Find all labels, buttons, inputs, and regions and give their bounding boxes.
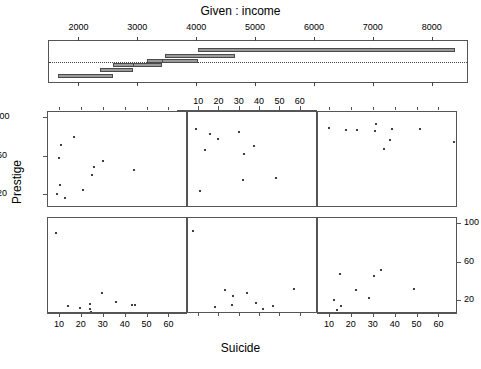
data-point: [356, 129, 358, 131]
data-point: [56, 193, 58, 195]
axis-tick-label: 60: [0, 150, 22, 160]
given-tick-mark: [373, 37, 374, 41]
given-tick-mark: [137, 82, 138, 86]
axis-tick-mark: [457, 300, 461, 301]
data-point: [67, 305, 69, 307]
axis-tick-mark: [351, 313, 352, 317]
data-point: [131, 304, 133, 306]
axis-tick-mark: [279, 106, 280, 110]
data-point: [255, 302, 257, 304]
y-axis-left-line: [47, 111, 48, 206]
data-point: [419, 128, 421, 130]
given-tick-mark: [196, 82, 197, 86]
axis-tick-label: 100: [464, 217, 479, 227]
data-point: [115, 301, 117, 303]
axis-tick-label: 60: [280, 96, 320, 106]
scatter-panel-top-middle: [187, 111, 317, 207]
given-tick-label: 2000: [58, 22, 98, 32]
axis-tick-mark: [147, 313, 148, 317]
scatter-panel-top-right: [317, 111, 457, 207]
scatter-panel-bottom-left: [47, 217, 187, 313]
data-point: [336, 309, 338, 311]
axis-tick-mark: [279, 313, 280, 316]
given-tick-mark: [432, 82, 433, 86]
data-point: [58, 157, 60, 159]
data-point: [389, 139, 391, 141]
axis-tick-mark: [168, 313, 169, 317]
axis-tick-mark: [373, 313, 374, 317]
given-tick-mark: [78, 37, 79, 41]
given-tick-label: 8000: [412, 22, 452, 32]
data-point: [391, 128, 393, 130]
axis-tick-mark: [457, 262, 461, 263]
axis-tick-label: 60: [418, 319, 458, 329]
axis-tick-mark: [457, 223, 461, 224]
data-point: [209, 133, 211, 135]
given-interval-bar: [100, 68, 133, 72]
given-dotted-baseline: [49, 62, 467, 63]
given-tick-mark: [314, 37, 315, 41]
axis-tick-mark: [59, 107, 60, 110]
given-panel: [48, 40, 468, 83]
data-point: [368, 297, 370, 299]
given-tick-label: 7000: [353, 22, 393, 32]
data-point: [232, 295, 234, 297]
axis-tick-mark: [373, 107, 374, 110]
data-point: [383, 148, 385, 150]
data-point: [89, 303, 91, 305]
given-interval-bar: [198, 48, 456, 52]
axis-tick-mark: [81, 313, 82, 317]
given-tick-mark: [432, 37, 433, 41]
given-tick-mark: [255, 82, 256, 86]
data-point: [375, 123, 377, 125]
data-point: [199, 190, 201, 192]
axis-tick-mark: [218, 313, 219, 316]
axis-tick-mark: [125, 107, 126, 110]
data-point: [374, 130, 376, 132]
axis-tick-mark: [168, 107, 169, 110]
axis-tick-mark: [417, 107, 418, 110]
data-point: [231, 304, 233, 306]
given-interval-bar: [133, 63, 162, 67]
data-point: [79, 307, 81, 309]
data-point: [275, 177, 277, 179]
axis-tick-label: 60: [464, 256, 474, 266]
axis-tick-mark: [417, 313, 418, 317]
given-interval-bar: [162, 59, 198, 63]
data-point: [93, 166, 95, 168]
data-point: [204, 149, 206, 151]
axis-tick-mark: [81, 107, 82, 110]
given-tick-label: 3000: [117, 22, 157, 32]
data-point: [333, 299, 335, 301]
axis-tick-mark: [395, 107, 396, 110]
given-tick-label: 4000: [176, 22, 216, 32]
data-point: [60, 144, 62, 146]
given-tick-mark: [255, 37, 256, 41]
given-tick-mark: [373, 82, 374, 86]
data-point: [413, 288, 415, 290]
data-point: [355, 289, 357, 291]
data-point: [242, 179, 244, 181]
data-point: [243, 153, 245, 155]
data-point: [272, 305, 274, 307]
axis-tick-label: 60: [148, 319, 188, 329]
data-point: [224, 289, 226, 291]
data-point: [55, 232, 57, 234]
axis-tick-mark: [103, 313, 104, 317]
data-point: [91, 174, 93, 176]
x-axis-bottom-left-line: [47, 313, 187, 314]
data-point: [373, 275, 375, 277]
axis-tick-label: 20: [464, 294, 474, 304]
coplot-figure: Given : income Suicide Prestige 20003000…: [0, 0, 481, 369]
data-point: [345, 129, 347, 131]
given-interval-bar: [58, 74, 113, 78]
axis-tick-mark: [438, 107, 439, 110]
axis-tick-label: 20: [0, 188, 22, 198]
scatter-panel-bottom-right: [317, 217, 457, 313]
scatter-panel-top-left: [47, 111, 187, 207]
data-point: [101, 292, 103, 294]
axis-tick-mark: [59, 313, 60, 317]
axis-tick-mark: [300, 106, 301, 110]
given-tick-mark: [196, 37, 197, 41]
axis-tick-mark: [329, 313, 330, 317]
